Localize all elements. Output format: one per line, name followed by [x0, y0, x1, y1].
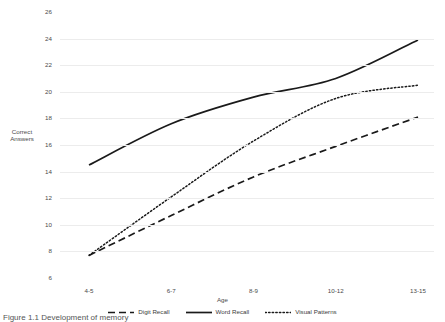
- y-axis-tick-labels: 26242220181614121086: [0, 0, 60, 320]
- x-axis-title: Age: [0, 297, 445, 303]
- y-axis-title: Correct Answers: [2, 128, 42, 143]
- y-tick-label: 16: [45, 142, 52, 148]
- series-lines: [60, 9, 445, 286]
- gridline: [60, 198, 434, 199]
- gridline: [60, 65, 434, 66]
- y-tick-label: 14: [45, 169, 52, 175]
- series-line: [89, 117, 418, 255]
- gridline: [60, 92, 434, 93]
- y-axis-title-line2: Answers: [2, 135, 42, 142]
- y-tick-label: 26: [45, 9, 52, 15]
- y-tick-label: 20: [45, 89, 52, 95]
- y-tick-label: 12: [45, 195, 52, 201]
- gridline: [60, 39, 434, 40]
- y-axis-title-line1: Correct: [2, 128, 42, 135]
- series-line: [89, 40, 418, 165]
- gridline: [60, 145, 434, 146]
- plot-area: [60, 9, 445, 286]
- x-tick-label: 13-15: [410, 288, 426, 294]
- figure-caption: Figure 1.1 Development of memory: [3, 313, 443, 322]
- gridline: [60, 251, 434, 252]
- x-tick-label: 6-7: [167, 288, 176, 294]
- gridline: [60, 118, 434, 119]
- series-line: [89, 85, 418, 255]
- y-tick-label: 18: [45, 115, 52, 121]
- x-tick-label: 8-9: [249, 288, 258, 294]
- x-tick-label: 10-12: [328, 288, 344, 294]
- y-tick-label: 6: [49, 275, 52, 281]
- x-tick-label: 4-5: [85, 288, 94, 294]
- y-tick-label: 8: [49, 248, 52, 254]
- y-tick-label: 10: [45, 222, 52, 228]
- y-tick-label: 24: [45, 36, 52, 42]
- gridline: [60, 225, 434, 226]
- gridline: [60, 172, 434, 173]
- y-tick-label: 22: [45, 62, 52, 68]
